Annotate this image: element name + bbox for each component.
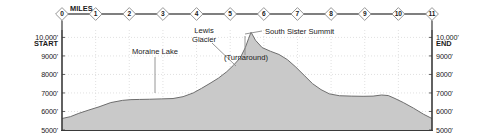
turnaround-annotation: (Turnaround)	[224, 53, 269, 62]
mile-marker-label: 5	[228, 10, 232, 17]
left-tick-5000: 5000'	[41, 126, 59, 135]
mile-marker-6[interactable]: 6	[257, 8, 270, 21]
mile-marker-label: 0	[60, 10, 64, 17]
mile-marker-label: 8	[329, 10, 333, 17]
mile-marker-10[interactable]: 10	[392, 8, 405, 21]
mile-marker-label: 7	[296, 10, 300, 17]
left-tick-7000: 7000'	[41, 89, 59, 98]
mile-marker-label: 10	[395, 10, 403, 17]
right-tick-6000: 6000'	[436, 107, 454, 116]
mile-markers-group: 01234567891011	[56, 8, 439, 30]
left-tick-8000: 8000'	[41, 70, 59, 79]
right-tick-8000: 8000'	[436, 70, 454, 79]
right-tick-9000: 9000'	[436, 52, 454, 61]
mile-marker-label: 9	[363, 10, 367, 17]
mile-marker-9[interactable]: 9	[358, 8, 371, 21]
right-tick-7000: 7000'	[436, 89, 454, 98]
mile-marker-5[interactable]: 5	[224, 8, 237, 21]
mile-marker-11[interactable]: 11	[426, 8, 439, 21]
elevation-area-fill	[62, 32, 432, 130]
mile-marker-label: 3	[161, 10, 165, 17]
lewis-glacier-annotation-line2: Glacier	[192, 35, 217, 44]
right-axis-tick-labels: 10,000'9000'8000'7000'6000'5000'	[429, 33, 459, 135]
mile-marker-4[interactable]: 4	[190, 8, 203, 21]
moraine-lake-annotation: Moraine Lake	[132, 47, 178, 56]
mile-marker-3[interactable]: 3	[157, 8, 170, 21]
elevation-profile-svg: 10,000'9000'8000'7000'6000'5000' 10,000'…	[0, 0, 494, 140]
left-axis-tick-labels: 10,000'9000'8000'7000'6000'5000'	[35, 33, 65, 135]
left-tick-9000: 9000'	[41, 52, 59, 61]
left-tick-6000: 6000'	[41, 107, 59, 116]
south-sister-summit-leader	[245, 31, 262, 34]
start-label: START	[34, 39, 59, 48]
mile-marker-0[interactable]: 0	[56, 8, 69, 21]
right-tick-5000: 5000'	[436, 126, 454, 135]
lewis-glacier-annotation-line1: Lewis	[194, 26, 214, 35]
mile-marker-label: 4	[195, 10, 199, 17]
mile-marker-7[interactable]: 7	[291, 8, 304, 21]
mile-marker-label: 6	[262, 10, 266, 17]
mile-marker-label: 11	[429, 10, 436, 17]
elevation-profile-chart: 10,000'9000'8000'7000'6000'5000' 10,000'…	[0, 0, 494, 140]
mile-marker-2[interactable]: 2	[123, 8, 136, 21]
mile-marker-label: 2	[127, 10, 131, 17]
mile-marker-label: 1	[94, 10, 98, 17]
end-label: END	[436, 39, 452, 48]
south-sister-summit-annotation: South Sister Summit	[265, 27, 335, 36]
miles-axis-label: MILES	[70, 4, 93, 13]
baseline-band	[62, 126, 432, 130]
mile-marker-8[interactable]: 8	[325, 8, 338, 21]
